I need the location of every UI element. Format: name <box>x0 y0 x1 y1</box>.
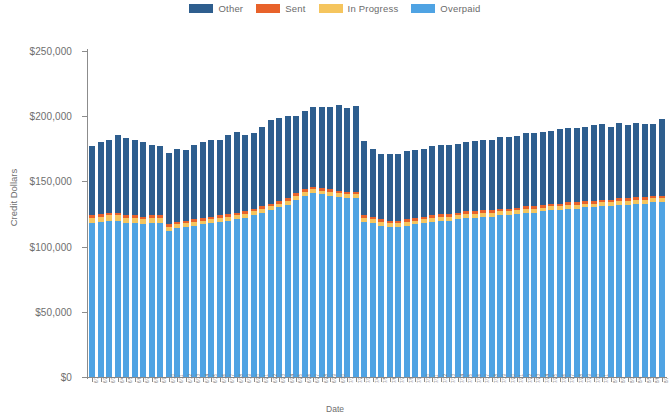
bar-column[interactable] <box>523 133 529 377</box>
legend-swatch-icon <box>319 4 343 13</box>
bar-column[interactable] <box>98 142 104 377</box>
bar-column[interactable] <box>582 127 588 377</box>
bar-segment-other <box>106 140 112 213</box>
bar-column[interactable] <box>633 123 639 377</box>
bar-segment-overpaid <box>89 223 95 377</box>
bar-column[interactable] <box>378 154 384 377</box>
bar-column[interactable] <box>225 135 231 378</box>
bar-column[interactable] <box>565 128 571 377</box>
bar-column[interactable] <box>293 116 299 377</box>
y-axis-tick-label: $250,000 <box>29 46 72 57</box>
bar-column[interactable] <box>446 145 452 377</box>
bar-segment-overpaid <box>633 204 639 377</box>
bar-column[interactable] <box>506 137 512 377</box>
bar-segment-overpaid <box>616 205 622 377</box>
bar-column[interactable] <box>497 137 503 377</box>
bar-column[interactable] <box>259 127 265 377</box>
x-axis-tick-label: 7/12 <box>443 374 448 383</box>
bar-column[interactable] <box>480 140 486 377</box>
bar-column[interactable] <box>642 124 648 377</box>
bar-segment-overpaid <box>574 209 580 377</box>
bar-column[interactable] <box>327 107 333 377</box>
bar-column[interactable] <box>140 142 146 377</box>
bar-column[interactable] <box>242 135 248 378</box>
bar-column[interactable] <box>404 151 410 377</box>
bar-column[interactable] <box>659 119 665 377</box>
bar-column[interactable] <box>157 146 163 377</box>
bar-segment-other <box>370 149 376 217</box>
bar-segment-overpaid <box>208 223 214 377</box>
x-axis-tick-mark <box>458 378 459 382</box>
bar-column[interactable] <box>395 154 401 377</box>
bar-column[interactable] <box>557 129 563 377</box>
bar-column[interactable] <box>591 125 597 377</box>
x-axis-tick-mark <box>101 378 102 382</box>
bar-column[interactable] <box>302 111 308 377</box>
legend-item-in-progress[interactable]: In Progress <box>319 4 399 14</box>
bar-column[interactable] <box>149 145 155 377</box>
bar-column[interactable] <box>344 108 350 377</box>
bar-column[interactable] <box>276 118 282 377</box>
bar-column[interactable] <box>353 106 359 377</box>
bar-column[interactable] <box>336 105 342 378</box>
bar-column[interactable] <box>132 140 138 377</box>
bar-column[interactable] <box>200 142 206 377</box>
bar-column[interactable] <box>514 136 520 377</box>
x-axis-tick-label: 7/8 <box>409 377 414 383</box>
legend-item-overpaid[interactable]: Overpaid <box>411 4 480 14</box>
bar-segment-other <box>591 125 597 201</box>
bar-column[interactable] <box>438 145 444 377</box>
bar-column[interactable] <box>455 144 461 377</box>
x-axis-tick-label: 7/23 <box>536 374 541 383</box>
bar-column[interactable] <box>251 133 257 377</box>
x-axis-tick-label: 8/1 <box>613 377 618 383</box>
x-axis-tick-label: 6/15 <box>213 374 218 383</box>
bar-column[interactable] <box>89 146 95 377</box>
bar-segment-other <box>548 131 554 204</box>
bar-column[interactable] <box>463 142 469 377</box>
bar-column[interactable] <box>115 135 121 378</box>
bar-column[interactable] <box>361 141 367 377</box>
y-axis-tick-label: $200,000 <box>29 111 72 122</box>
bar-column[interactable] <box>421 149 427 377</box>
legend-item-sent[interactable]: Sent <box>256 4 305 14</box>
x-axis-tick-label: 7/5 <box>383 377 388 383</box>
bar-column[interactable] <box>650 124 656 377</box>
bar-column[interactable] <box>319 107 325 377</box>
bar-column[interactable] <box>370 149 376 377</box>
x-axis-tick-mark <box>628 378 629 382</box>
bar-column[interactable] <box>183 150 189 377</box>
bar-column[interactable] <box>531 133 537 377</box>
bar-column[interactable] <box>429 146 435 377</box>
bar-column[interactable] <box>540 132 546 377</box>
bar-column[interactable] <box>625 125 631 377</box>
bar-column[interactable] <box>489 140 495 377</box>
x-axis-tick-label: 7/16 <box>477 374 482 383</box>
bar-segment-other <box>599 124 605 200</box>
bar-column[interactable] <box>574 128 580 377</box>
bar-segment-other <box>336 105 342 191</box>
bar-column[interactable] <box>166 153 172 377</box>
bar-column[interactable] <box>310 107 316 377</box>
bar-column[interactable] <box>616 123 622 377</box>
bar-column[interactable] <box>472 141 478 377</box>
bar-segment-other <box>302 111 308 189</box>
bar-column[interactable] <box>548 131 554 377</box>
bar-column[interactable] <box>123 138 129 377</box>
bar-column[interactable] <box>268 120 274 377</box>
bar-column[interactable] <box>174 149 180 377</box>
bar-column[interactable] <box>106 140 112 377</box>
bar-column[interactable] <box>387 154 393 377</box>
bar-column[interactable] <box>234 132 240 377</box>
bar-column[interactable] <box>217 140 223 377</box>
bar-segment-overpaid <box>599 206 605 377</box>
bar-column[interactable] <box>599 124 605 377</box>
bar-column[interactable] <box>608 127 614 377</box>
legend-item-other[interactable]: Other <box>189 4 243 14</box>
bar-segment-other <box>166 153 172 225</box>
bar-column[interactable] <box>208 140 214 377</box>
bar-column[interactable] <box>191 145 197 377</box>
bar-column[interactable] <box>285 116 291 377</box>
bar-column[interactable] <box>412 150 418 377</box>
y-axis-tick-label: $50,000 <box>35 306 72 317</box>
